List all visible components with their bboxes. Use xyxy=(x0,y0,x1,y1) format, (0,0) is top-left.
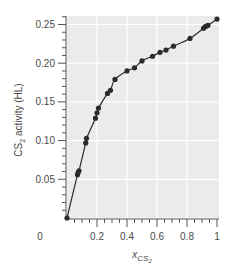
data-point xyxy=(214,16,219,21)
x-tick-label: 0.4 xyxy=(120,231,134,242)
x-tick-label: 1 xyxy=(214,231,220,242)
data-point xyxy=(205,23,210,28)
origin-label: 0 xyxy=(37,231,43,242)
data-point xyxy=(187,36,192,41)
x-tick-label: 0.2 xyxy=(90,231,104,242)
data-point xyxy=(163,47,168,52)
data-point xyxy=(94,110,99,115)
y-tick-label: 0.15 xyxy=(36,96,56,107)
x-axis: 0.20.40.60.81 xyxy=(66,219,220,242)
x-tick-label: 0.8 xyxy=(180,231,194,242)
y-axis: 0.050.100.150.200.25 xyxy=(36,16,66,218)
x-tick-label: 0.6 xyxy=(150,231,164,242)
plot-panel xyxy=(67,16,219,218)
y-tick-label: 0.10 xyxy=(36,135,56,146)
data-point xyxy=(108,88,113,93)
data-point xyxy=(96,105,101,110)
data-point xyxy=(84,136,89,141)
chart: 0.050.100.150.200.25 0.20.40.60.81 0 xCS… xyxy=(0,0,231,267)
data-point xyxy=(64,215,69,220)
data-point xyxy=(93,116,98,121)
data-point xyxy=(139,58,144,63)
data-point xyxy=(132,65,137,70)
data-point xyxy=(157,50,162,55)
y-tick-label: 0.20 xyxy=(36,58,56,69)
y-axis-title: CS2 activity (HL) xyxy=(13,83,26,156)
data-point xyxy=(76,168,81,173)
data-point xyxy=(150,54,155,59)
data-point xyxy=(83,140,88,145)
y-tick-label: 0.05 xyxy=(36,174,56,185)
data-point xyxy=(171,44,176,49)
x-axis-title: xCS2 xyxy=(131,249,152,264)
data-point xyxy=(112,77,117,82)
y-tick-label: 0.25 xyxy=(36,19,56,30)
data-point xyxy=(124,68,129,73)
